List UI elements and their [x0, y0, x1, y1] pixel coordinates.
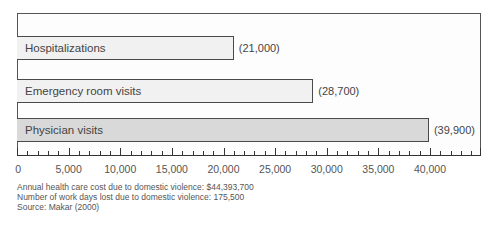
major-tick [17, 148, 18, 156]
minor-tick [254, 151, 255, 156]
x-axis-line [17, 155, 481, 156]
minor-tick [193, 151, 194, 156]
major-tick [430, 148, 431, 156]
minor-tick [409, 151, 410, 156]
minor-tick [471, 151, 472, 156]
bar-physician-visits: Physician visits [17, 118, 429, 142]
minor-tick [110, 151, 111, 156]
minor-tick [27, 151, 28, 156]
bar-label: Physician visits [25, 124, 103, 136]
chart-notes: Annual health care cost due to domestic … [17, 182, 254, 212]
major-tick [327, 148, 328, 156]
value-label: (39,900) [434, 124, 475, 136]
minor-tick [89, 151, 90, 156]
note-source: Source: Makar (2000) [17, 202, 254, 212]
minor-tick [296, 151, 297, 156]
minor-tick [337, 151, 338, 156]
bar-hospitalizations: Hospitalizations [17, 36, 234, 60]
minor-tick [285, 151, 286, 156]
x-tick-label: 25,000 [259, 163, 291, 175]
minor-tick [48, 151, 49, 156]
minor-tick [100, 151, 101, 156]
minor-tick [358, 151, 359, 156]
minor-tick [141, 151, 142, 156]
minor-tick [265, 151, 266, 156]
x-tick-label: 5,000 [55, 163, 81, 175]
minor-tick [461, 151, 462, 156]
x-tick-label: 10,000 [104, 163, 136, 175]
minor-tick [244, 151, 245, 156]
note-health-care-cost: Annual health care cost due to domestic … [17, 182, 254, 192]
minor-tick [399, 151, 400, 156]
x-tick-label: 0 [15, 163, 21, 175]
value-label: (28,700) [318, 85, 359, 97]
minor-tick [182, 151, 183, 156]
x-tick-label: 40,000 [414, 163, 446, 175]
minor-tick [420, 151, 421, 156]
minor-tick [389, 151, 390, 156]
minor-tick [234, 151, 235, 156]
major-tick [69, 148, 70, 156]
major-tick [275, 148, 276, 156]
minor-tick [79, 151, 80, 156]
minor-tick [58, 151, 59, 156]
minor-tick [368, 151, 369, 156]
major-tick [172, 148, 173, 156]
minor-tick [151, 151, 152, 156]
minor-tick [451, 151, 452, 156]
minor-tick [213, 151, 214, 156]
minor-tick [131, 151, 132, 156]
minor-tick [440, 151, 441, 156]
bar-emergency-room-visits: Emergency room visits [17, 79, 313, 103]
x-tick-label: 35,000 [362, 163, 394, 175]
minor-tick [316, 151, 317, 156]
x-tick-label: 20,000 [207, 163, 239, 175]
bar-label: Emergency room visits [25, 85, 141, 97]
x-tick-label: 15,000 [156, 163, 188, 175]
major-tick [378, 148, 379, 156]
minor-tick [347, 151, 348, 156]
minor-tick [306, 151, 307, 156]
bar-label: Hospitalizations [25, 42, 106, 54]
minor-tick [203, 151, 204, 156]
note-work-days-lost: Number of work days lost due to domestic… [17, 192, 254, 202]
major-tick [480, 148, 481, 156]
minor-tick [38, 151, 39, 156]
value-label: (21,000) [239, 42, 280, 54]
major-tick [120, 148, 121, 156]
x-tick-label: 30,000 [311, 163, 343, 175]
minor-tick [162, 151, 163, 156]
major-tick [224, 148, 225, 156]
